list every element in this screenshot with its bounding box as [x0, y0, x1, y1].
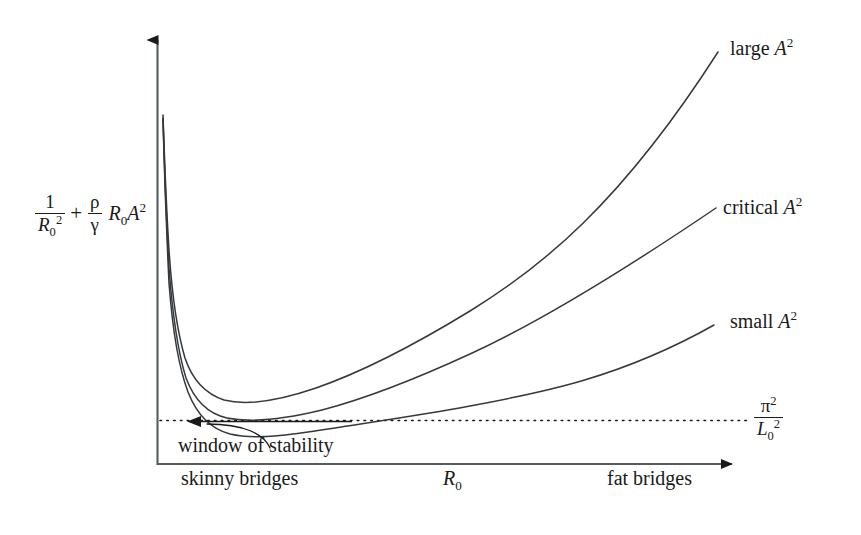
x-axis-label-base: R: [443, 467, 455, 489]
curve-label-large-var: A: [775, 37, 787, 59]
threshold-den-sup: 2: [774, 417, 780, 431]
curve-label-critical-var: A: [784, 196, 796, 218]
curve-label-small-sup: 2: [791, 308, 798, 323]
y-axis-tail-sup: 2: [140, 200, 147, 215]
curve-label-small-prefix: small: [730, 310, 773, 332]
plot-canvas: [0, 0, 861, 535]
curve-large-a2: [163, 52, 718, 403]
y-axis-frac2-denominator: γ: [88, 213, 102, 235]
y-axis-frac1-numerator: 1: [42, 192, 58, 213]
y-axis-frac1-den-sup: 2: [56, 213, 62, 227]
x-axis-label-sub: 0: [455, 478, 462, 493]
threshold-num-base: π: [761, 395, 771, 416]
x-axis-label: R0: [443, 468, 462, 489]
y-axis-frac1-den-sub: 0: [50, 225, 56, 239]
y-axis-frac1-denominator: R02: [35, 213, 65, 235]
y-axis-tail-var: A: [127, 202, 139, 224]
curve-label-critical-prefix: critical: [723, 196, 779, 218]
y-axis-frac1-den-base: R: [38, 214, 50, 235]
curve-label-critical-a2: critical A2: [723, 197, 802, 218]
threshold-denominator: L02: [754, 417, 783, 439]
threshold-num-sup: 2: [770, 394, 776, 408]
curve-label-critical-sup: 2: [796, 194, 803, 209]
figure-root: 1 R02 + ρ γ R0A2 large A2 critical A2 sm…: [0, 0, 861, 535]
threshold-label: π2 L02: [752, 396, 785, 439]
skinny-bridges-label: skinny bridges: [181, 468, 298, 489]
window-of-stability-label: window of stability: [178, 435, 334, 456]
curve-critical-a2: [163, 118, 716, 420]
fat-bridges-label: fat bridges: [607, 468, 692, 489]
y-axis-frac2-numerator: ρ: [87, 192, 102, 213]
curve-label-large-sup: 2: [787, 35, 794, 50]
threshold-den-sub: 0: [768, 429, 774, 443]
curve-label-large-a2: large A2: [730, 38, 793, 59]
curve-small-a2: [163, 120, 714, 437]
threshold-den-base: L: [757, 418, 768, 439]
y-axis-first-fraction: 1 R02: [35, 192, 65, 235]
y-axis-plus-operator: +: [70, 202, 82, 224]
threshold-numerator: π2: [758, 396, 780, 417]
y-axis-label-tail: R0A2: [108, 203, 146, 224]
curve-label-large-prefix: large: [730, 37, 770, 59]
threshold-fraction: π2 L02: [754, 396, 783, 439]
curve-label-small-a2: small A2: [730, 311, 797, 332]
curve-label-small-var: A: [778, 310, 790, 332]
y-axis-label: 1 R02 + ρ γ R0A2: [33, 192, 146, 235]
y-axis-tail-base: R: [108, 202, 120, 224]
y-axis-second-fraction: ρ γ: [87, 192, 102, 235]
